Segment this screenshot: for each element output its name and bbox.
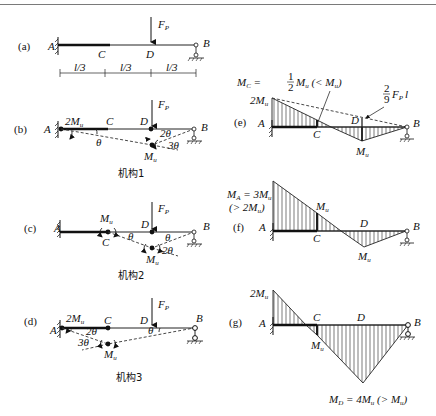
mc-frac-den: 2 — [288, 81, 294, 93]
panel-f-tag: (f) — [233, 221, 244, 234]
rotation-arrow-icon — [114, 340, 116, 348]
fixed-support-icon — [55, 121, 58, 138]
label-C: C — [98, 48, 106, 60]
moment-region-A — [273, 290, 306, 325]
panel-c-tag: (c) — [24, 222, 37, 235]
bottom-moment: Mu — [357, 250, 371, 264]
label-D: D — [350, 114, 359, 126]
label-B: B — [413, 220, 420, 232]
md-annotation: MD = 4Mu (> Mu) — [328, 393, 408, 407]
dim-3: l/3 — [166, 61, 178, 73]
roller-support-icon — [188, 43, 204, 61]
bottom-moment: Mu — [355, 145, 369, 159]
angle-label-theta-C: θ — [128, 230, 134, 242]
moment-region-C — [306, 325, 317, 335]
panel-b: (b) A 2Mu C D FP θ 2θ 3θ Mu — [14, 98, 208, 179]
structural-diagram: (a) A C D FP B — [0, 0, 436, 416]
angle-label-2theta: 2θ — [160, 127, 172, 139]
label-A: A — [47, 40, 55, 52]
fp-frac-den: 9 — [384, 93, 390, 105]
label-C: C — [313, 311, 321, 323]
caption-mechanism-3: 机构3 — [116, 371, 142, 383]
moment-region-AC — [273, 181, 317, 231]
mc-label: Mu — [315, 200, 329, 214]
ma-annotation-line1: MA = 3Mu — [226, 188, 272, 202]
mechanism-deformed-shape — [108, 232, 194, 248]
label-A: A — [258, 317, 266, 329]
hinge-D — [150, 230, 155, 235]
leader-line — [318, 91, 330, 122]
moment-region-CB — [317, 325, 408, 383]
rotation-arrow-icon — [144, 244, 146, 253]
load-label: FP — [157, 202, 170, 216]
roller-support-icon — [187, 127, 202, 144]
plastic-hinge-D — [150, 246, 155, 251]
angle-label-theta-B: θ — [165, 231, 171, 243]
hinge-C — [106, 326, 111, 331]
label-A: A — [258, 221, 266, 233]
angle-label-theta: θ — [96, 136, 102, 148]
fixed-support-icon — [269, 120, 272, 137]
ma-annotation-line2: (> 2Mu) — [229, 201, 265, 215]
panel-a: (a) A C D FP B — [18, 17, 210, 77]
label-D: D — [139, 314, 148, 326]
angle-arc — [159, 328, 160, 332]
label-C: C — [106, 115, 114, 127]
label-D: D — [145, 48, 154, 60]
moment-region-AC — [272, 98, 317, 127]
label-B: B — [196, 312, 203, 324]
moment-label-C: Mu — [99, 212, 113, 226]
label-C: C — [102, 236, 110, 248]
panel-d-tag: (d) — [24, 315, 37, 328]
label-B: B — [203, 220, 210, 232]
moment-region-CD — [331, 127, 362, 141]
angle-label-3theta: 3θ — [167, 139, 180, 151]
rotation-arrow-icon — [155, 140, 158, 149]
panel-c: (c) A Mu C D FP θ θ 2θ Mu — [24, 202, 210, 281]
angle-label-theta: θ — [148, 324, 154, 336]
plastic-hinge-D — [150, 143, 155, 148]
label-B: B — [413, 117, 420, 129]
label-A: A — [49, 324, 57, 336]
rotation-arrow-icon — [100, 340, 102, 348]
moment-region-C — [317, 120, 331, 127]
roller-support-icon — [187, 230, 202, 247]
mc-label: Mu — [310, 339, 324, 353]
label-D: D — [359, 217, 368, 229]
mc-annotation: MC = — [236, 76, 261, 90]
dim-2: l/3 — [120, 61, 132, 73]
label-B: B — [203, 37, 210, 49]
moment-label-D: Mu — [145, 253, 159, 267]
rotation-arrow-icon — [66, 330, 72, 333]
panel-d: (d) A 2Mu C D FP 2θ 3θ θ Mu — [24, 298, 203, 383]
hinge-D — [149, 127, 154, 132]
dim-1: l/3 — [74, 61, 86, 73]
load-label: FP — [157, 98, 170, 112]
moment-label-A: 2Mu — [65, 115, 84, 129]
top-left-moment: 2Mu — [250, 94, 269, 108]
angle-label-2theta: 2θ — [162, 244, 174, 256]
load-label: FP — [157, 18, 170, 32]
fp-term: FPl — [391, 88, 408, 102]
panel-b-tag: (b) — [14, 123, 27, 136]
label-C: C — [104, 314, 112, 326]
moment-label-A: 2Mu — [66, 312, 85, 326]
moment-region-C — [317, 213, 341, 231]
panel-e-tag: (e) — [234, 116, 247, 129]
leader-arrow — [366, 107, 384, 118]
plastic-hinge-C — [106, 342, 111, 347]
angle-label-3theta: 3θ — [77, 336, 90, 348]
label-C: C — [313, 232, 321, 244]
rotation-arrow-icon — [146, 139, 150, 141]
label-A: A — [43, 123, 51, 135]
label-B: B — [201, 121, 208, 133]
caption-mechanism-2: 机构2 — [118, 269, 144, 281]
rotation-arrow-icon — [70, 131, 72, 139]
label-D: D — [356, 311, 365, 323]
panel-e: MC = 1 2 Mu (< Mu) 2 9 FPl 2Mu (e) A C D — [234, 70, 420, 159]
panel-g: 2Mu (g) A C D Mu B MD = 4Mu (> M — [229, 287, 421, 407]
label-A: A — [257, 117, 265, 129]
panel-g-tag: (g) — [229, 316, 242, 329]
fixed-support-icon — [55, 37, 58, 55]
fixed-support-icon — [270, 223, 273, 241]
